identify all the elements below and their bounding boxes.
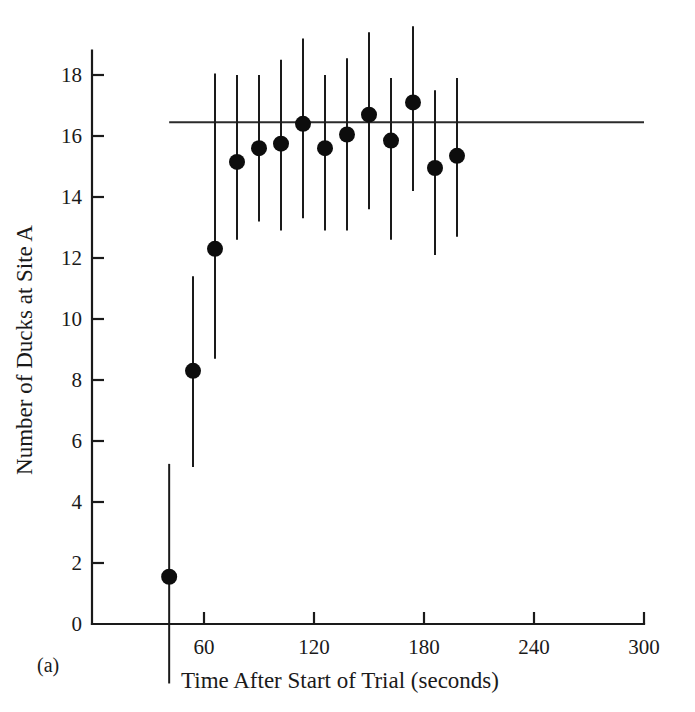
y-tick-label: 6 [72, 429, 83, 453]
data-markers-group [161, 94, 465, 584]
data-point-marker [207, 241, 223, 257]
error-bars-group [169, 26, 457, 683]
y-tick-label: 8 [72, 368, 83, 392]
data-point-marker [251, 140, 267, 156]
panel-label: (a) [37, 654, 59, 677]
data-point-marker [405, 94, 421, 110]
y-tick-label: 0 [72, 612, 83, 636]
data-point-marker [185, 363, 201, 379]
data-point-marker [361, 107, 377, 123]
y-tick-label: 2 [72, 551, 83, 575]
y-axis-title: Number of Ducks at Site A [12, 225, 37, 475]
data-point-marker [339, 126, 355, 142]
y-tick-label: 12 [61, 246, 82, 270]
y-tick-label: 10 [61, 307, 82, 331]
data-point-marker [427, 160, 443, 176]
data-point-marker [383, 133, 399, 149]
x-tick-label: 300 [628, 635, 660, 659]
x-tick-label: 60 [194, 635, 215, 659]
y-tick-label: 14 [61, 185, 83, 209]
x-tick-labels-group: 60120180240300 [194, 635, 660, 659]
x-axis-title: Time After Start of Trial (seconds) [181, 668, 499, 693]
x-tick-label: 180 [408, 635, 440, 659]
data-point-marker [229, 154, 245, 170]
y-tick-label: 18 [61, 63, 82, 87]
data-point-marker [317, 140, 333, 156]
scatter-plot-with-error-bars: 024681012141618 60120180240300 Time Afte… [0, 0, 695, 712]
y-tick-label: 4 [72, 490, 83, 514]
data-point-marker [295, 116, 311, 132]
data-point-marker [161, 569, 177, 585]
y-tick-labels-group: 024681012141618 [61, 63, 83, 636]
data-point-marker [449, 148, 465, 164]
x-tick-label: 120 [298, 635, 330, 659]
x-tick-label: 240 [518, 635, 550, 659]
figure-container: 024681012141618 60120180240300 Time Afte… [0, 0, 695, 712]
data-point-marker [273, 136, 289, 152]
y-tick-label: 16 [61, 124, 82, 148]
